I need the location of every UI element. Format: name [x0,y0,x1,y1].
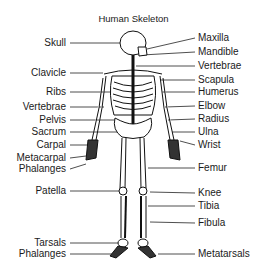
label-pelvis: Pelvis [39,114,66,126]
label-humerus: Humerus [198,86,239,98]
label-vertebrae-right: Vertebrae [198,60,241,72]
label-tibia: Tibia [198,200,219,212]
label-wrist: Wrist [198,139,221,151]
label-phalanges-hand: Phalanges [19,163,66,175]
label-clavicle: Clavicle [31,67,66,79]
label-knee: Knee [198,187,221,199]
label-mandible: Mandible [198,46,239,58]
label-skull: Skull [44,37,66,49]
label-femur: Femur [198,162,227,174]
label-vertebrae-left: Vertebrae [23,101,66,113]
label-maxilla: Maxilla [198,32,229,44]
label-carpal: Carpal [37,139,66,151]
label-radius: Radius [198,113,229,125]
label-scapula: Scapula [198,74,234,86]
label-phalanges-foot: Phalanges [19,248,66,260]
label-fibula: Fibula [198,217,225,229]
label-ribs: Ribs [46,86,66,98]
label-ulna: Ulna [198,126,219,138]
label-metatarsals: Metatarsals [198,248,250,260]
label-elbow: Elbow [198,100,225,112]
label-sacrum: Sacrum [32,126,66,138]
label-patella: Patella [35,185,66,197]
